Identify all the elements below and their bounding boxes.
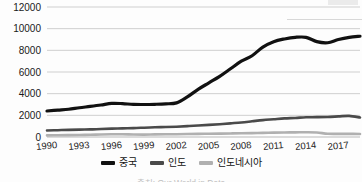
y-tick-label: 2000 [19, 110, 42, 121]
x-tick-label: 2011 [263, 139, 284, 152]
chart-legend: 중국 인도 인도네시아 [0, 155, 362, 171]
x-tick-label: 2014 [295, 139, 317, 152]
y-tick-label: 10000 [13, 23, 41, 34]
series-line-2 [47, 132, 360, 135]
x-tick-label: 2017 [327, 139, 349, 152]
x-tick-label: 1993 [68, 139, 90, 152]
line-chart-plot: 020004000600080001000012000 199019931996… [0, 0, 362, 155]
x-tick-label: 2008 [230, 139, 252, 152]
x-tick-label: 1999 [133, 139, 155, 152]
y-tick-label: 12000 [13, 2, 41, 13]
y-axis-tick-labels: 020004000600080001000012000 [13, 2, 41, 143]
legend-item-china[interactable]: 중국 [101, 158, 137, 168]
legend-swatch-india [150, 161, 164, 164]
legend-swatch-indonesia [199, 161, 213, 164]
legend-label-china: 중국 [119, 158, 137, 168]
legend-item-indonesia[interactable]: 인도네시아 [199, 158, 262, 168]
series-line-0 [47, 36, 360, 111]
legend-label-india: 인도 [168, 158, 186, 168]
legend-label-indonesia: 인도네시아 [217, 158, 262, 168]
series-line-1 [47, 116, 360, 131]
y-tick-label: 8000 [19, 45, 42, 56]
x-tick-label: 1996 [100, 139, 122, 152]
chart-container: 020004000600080001000012000 199019931996… [0, 0, 362, 182]
y-tick-label: 6000 [19, 67, 42, 78]
x-tick-label: 2005 [197, 139, 219, 152]
source-text: 출처: Our World in Data [137, 178, 226, 182]
x-axis-tick-labels: 1990199319961999200220052008201120142017 [36, 139, 350, 152]
legend-swatch-china [101, 161, 115, 165]
data-series-lines [47, 36, 360, 135]
source-caption: 출처: Our World in Data [0, 172, 362, 182]
y-tick-label: 4000 [19, 88, 42, 99]
x-tick-label: 2002 [165, 139, 187, 152]
legend-item-india[interactable]: 인도 [150, 158, 186, 168]
x-tick-label: 1990 [36, 139, 58, 152]
